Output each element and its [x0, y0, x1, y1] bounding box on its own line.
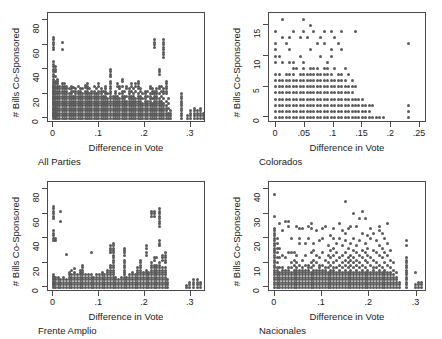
data-point — [414, 283, 417, 286]
data-point — [81, 264, 84, 267]
x-tick-label-1-0: 0 — [272, 129, 277, 138]
data-point — [109, 68, 112, 71]
data-point — [319, 91, 322, 94]
data-point — [337, 42, 340, 45]
x-tick-0-3 — [190, 122, 191, 127]
data-point — [278, 73, 281, 76]
data-point — [274, 98, 277, 101]
data-point — [274, 116, 277, 119]
data-point — [332, 227, 335, 230]
x-tick-label-2-3: .3 — [186, 298, 194, 307]
data-point — [302, 98, 305, 101]
data-point — [202, 112, 205, 115]
data-point — [414, 286, 417, 289]
y-tick-label-1-3: 15 — [253, 29, 262, 38]
x-axis-title-2: Difference in Vote — [47, 311, 205, 322]
data-point — [330, 30, 333, 33]
data-point — [326, 67, 329, 70]
data-point — [364, 217, 367, 220]
data-point — [112, 254, 115, 257]
data-point — [180, 117, 183, 120]
data-point — [333, 104, 336, 107]
data-point — [274, 61, 277, 64]
data-point — [158, 242, 161, 245]
data-point — [382, 116, 385, 119]
y-tick-label-0-0: 0 — [32, 119, 41, 124]
data-point — [319, 116, 322, 119]
data-point — [52, 205, 55, 208]
data-point — [158, 239, 161, 242]
x-tick-label-0-0: 0 — [50, 129, 55, 138]
data-point — [354, 30, 357, 33]
data-point — [288, 104, 291, 107]
y-tick-label-3-1: 10 — [253, 266, 262, 275]
data-point — [274, 55, 277, 58]
data-point — [52, 46, 55, 49]
data-point — [383, 237, 386, 240]
data-point — [398, 286, 401, 289]
panel-caption-1: Colorados — [259, 156, 302, 167]
data-point — [319, 73, 322, 76]
data-point — [361, 98, 364, 101]
data-point — [381, 256, 384, 259]
data-point — [361, 210, 364, 213]
data-point — [288, 48, 291, 51]
data-point — [189, 117, 192, 120]
data-point — [153, 259, 156, 262]
data-point — [355, 244, 358, 247]
data-point — [364, 110, 367, 113]
y-tick-label-1-1: 5 — [253, 88, 262, 93]
y-tick-label-0-2: 40 — [32, 73, 41, 82]
data-point — [278, 247, 281, 250]
x-tick-label-2-1: .1 — [95, 298, 103, 307]
data-point — [114, 90, 117, 93]
data-point — [165, 90, 168, 93]
data-point — [285, 42, 288, 45]
data-point — [333, 110, 336, 113]
data-point — [158, 73, 161, 76]
data-point — [158, 68, 161, 71]
data-point — [273, 193, 276, 196]
data-point — [358, 239, 361, 242]
data-point — [333, 116, 336, 119]
data-point — [405, 239, 408, 242]
data-point — [389, 249, 392, 252]
data-point — [398, 281, 401, 284]
data-point — [287, 225, 290, 228]
data-point — [378, 225, 381, 228]
data-point — [290, 266, 293, 269]
plot-area-0 — [47, 12, 205, 122]
data-point — [281, 98, 284, 101]
data-point — [318, 256, 321, 259]
data-point — [319, 110, 322, 113]
panel-nacionales: 010203040 # Bills Co-Sponsored Differenc… — [221, 169, 442, 339]
data-point — [333, 85, 336, 88]
x-axis-title-0: Difference in Vote — [47, 142, 205, 153]
data-point — [310, 227, 313, 230]
data-point — [319, 55, 322, 58]
data-point — [386, 222, 389, 225]
data-point — [355, 225, 358, 228]
data-point — [306, 36, 309, 39]
data-point — [299, 55, 302, 58]
data-point — [288, 110, 291, 113]
data-point — [326, 61, 329, 64]
data-point — [364, 104, 367, 107]
data-point — [278, 222, 281, 225]
y-tick-label-0-1: 20 — [32, 97, 41, 106]
x-tick-1-3 — [361, 122, 362, 127]
data-point — [366, 247, 369, 250]
data-point — [333, 98, 336, 101]
data-point — [166, 281, 169, 284]
data-point — [319, 85, 322, 88]
data-point — [158, 215, 161, 218]
data-point — [333, 79, 336, 82]
y-axis-title-3: # Bills Co-Sponsored — [231, 177, 242, 307]
data-point — [186, 114, 189, 117]
data-point — [167, 102, 170, 105]
data-point — [310, 222, 313, 225]
x-tick-1-5 — [419, 122, 420, 127]
data-point — [281, 104, 284, 107]
data-point — [302, 61, 305, 64]
data-point — [109, 85, 112, 88]
